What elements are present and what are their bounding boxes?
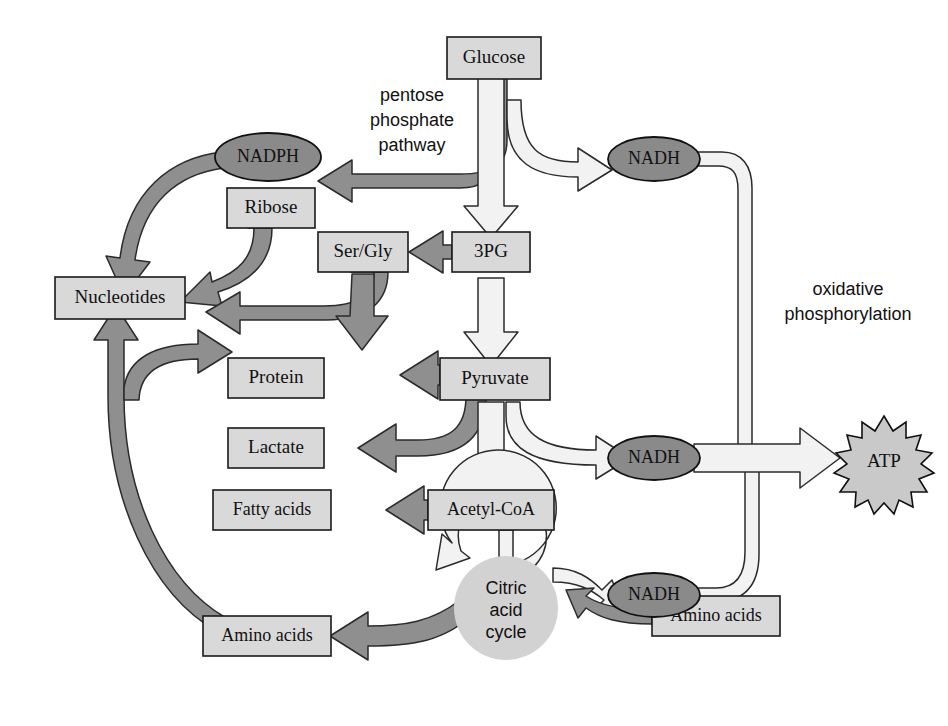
pentose-line-3: pathway (378, 135, 445, 155)
node-ser-gly: Ser/Gly (318, 232, 408, 272)
node-pyruvate: Pyruvate (440, 358, 550, 400)
arrow-glucose-to-nadh-top (507, 100, 612, 191)
pentose-line-2: phosphate (370, 110, 454, 130)
node-nadh-bottom: NADH (608, 573, 700, 617)
node-lactate: Lactate (228, 428, 324, 468)
node-nadh-top: NADH (608, 137, 700, 181)
arrow-nadh-middle-to-atp (694, 428, 840, 488)
node-nucleotides: Nucleotides (55, 277, 185, 319)
node-nadh-middle: NADH (608, 436, 700, 480)
node-ribose: Ribose (227, 188, 315, 228)
arrow-aminoacids-to-nucleotides-and-protein (94, 306, 232, 632)
node-nadph: NADPH (215, 133, 321, 181)
arrow-ribose-to-nucleotides (180, 228, 272, 306)
node-acetyl-coa: Acetyl-CoA (428, 490, 554, 530)
annotation-oxidative-phosphorylation: oxidative phosphorylation (784, 279, 911, 324)
oxphos-line-2: phosphorylation (784, 304, 911, 324)
oxphos-line-1: oxidative (812, 279, 883, 299)
pentose-line-1: pentose (380, 85, 444, 105)
arrow-nadph-to-nucleotides (106, 152, 224, 296)
node-glucose: Glucose (447, 37, 541, 79)
pipe-nadh-top-to-oxphos (694, 152, 752, 448)
pathway-canvas: Glucose NADPH Ribose Nucleotides Ser/Gly… (0, 0, 948, 726)
arrow-3pg-to-sergly (409, 231, 452, 273)
node-amino-acids-left: Amino acids (203, 616, 331, 656)
annotation-pentose-phosphate-pathway: pentose phosphate pathway (370, 85, 454, 155)
node-protein: Protein (228, 358, 324, 398)
node-3pg: 3PG (452, 232, 530, 272)
node-citric-acid-cycle: Citric acid cycle (454, 556, 558, 660)
arrow-3pg-to-pyruvate (464, 278, 518, 366)
metabolic-pathway-diagram: Glucose NADPH Ribose Nucleotides Ser/Gly… (0, 0, 948, 726)
arrow-acetylcoa-to-fattyacids (386, 486, 428, 534)
arrow-pyruvate-to-protein (400, 351, 440, 399)
node-fatty-acids: Fatty acids (213, 490, 331, 530)
pipe-nadh-bottom-to-oxphos (694, 470, 759, 602)
node-atp: ATP (834, 416, 934, 514)
